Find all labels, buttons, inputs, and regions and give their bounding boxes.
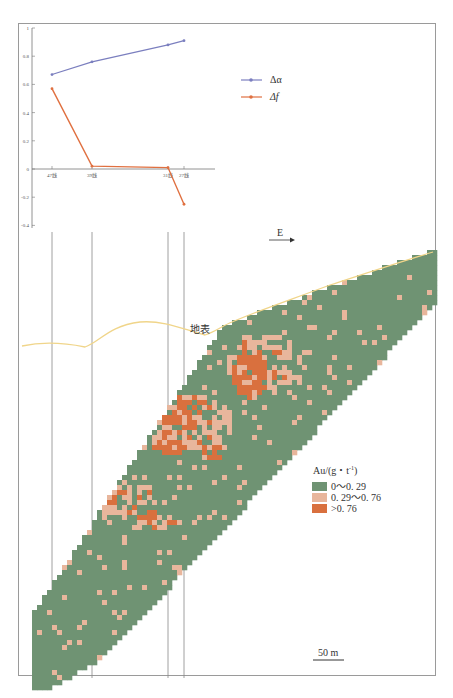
grade-swatch-mid bbox=[312, 493, 327, 502]
scale-label: 50 m bbox=[318, 647, 339, 658]
x-tick-label: 47线 bbox=[47, 172, 57, 178]
east-direction-indicator: E bbox=[269, 227, 295, 243]
y-ticks: 10.80.60.40.20-0.2-0.4 bbox=[21, 26, 35, 228]
grade-legend-title: Au/(g・t-1) bbox=[313, 465, 357, 477]
x-tick-label: 27线 bbox=[179, 172, 189, 178]
y-tick-label: -0.2 bbox=[21, 195, 29, 200]
surface-label: 地表 bbox=[190, 323, 210, 335]
legend-delta-alpha-marker bbox=[249, 78, 253, 82]
series-delta-f-line bbox=[52, 89, 184, 205]
grade-label-mid: 0. 29～0. 76 bbox=[331, 492, 381, 503]
grade-swatch-high bbox=[312, 504, 327, 513]
y-tick-label: 1 bbox=[27, 26, 30, 31]
legend-delta-f-label: Δf bbox=[269, 91, 280, 102]
series-markers bbox=[51, 39, 186, 205]
y-tick-label: -0.4 bbox=[21, 223, 29, 228]
direction-label: E bbox=[277, 227, 283, 238]
grade-legend: Au/(g・t-1) 0～0. 29 0. 29～0. 76 >0. 76 bbox=[312, 465, 381, 514]
series-delta-alpha-line bbox=[52, 41, 184, 75]
grade-swatch-low bbox=[312, 482, 327, 491]
y-tick-label: 0.2 bbox=[23, 139, 30, 144]
y-tick-label: 0 bbox=[27, 167, 30, 172]
y-tick-label: 0.8 bbox=[23, 54, 30, 59]
au-grade-cross-section bbox=[32, 250, 437, 690]
grade-label-low: 0～0. 29 bbox=[331, 481, 366, 492]
scale-bar: 50 m bbox=[313, 647, 344, 660]
legend-delta-alpha-label: Δα bbox=[270, 74, 282, 85]
y-tick-label: 0.4 bbox=[23, 111, 30, 116]
legend-delta-f-marker bbox=[249, 95, 253, 99]
y-tick-label: 0.6 bbox=[23, 82, 30, 87]
figure-canvas: 10.80.60.40.20-0.2-0.4 47线39线31线27线 Δα Δ… bbox=[0, 0, 453, 698]
line-chart: 10.80.60.40.20-0.2-0.4 47线39线31线27线 bbox=[21, 26, 215, 228]
arrow-head-icon bbox=[290, 238, 295, 243]
grade-label-high: >0. 76 bbox=[331, 503, 357, 514]
x-tick-label: 39线 bbox=[87, 172, 97, 178]
line-legend: Δα Δf bbox=[241, 74, 282, 102]
